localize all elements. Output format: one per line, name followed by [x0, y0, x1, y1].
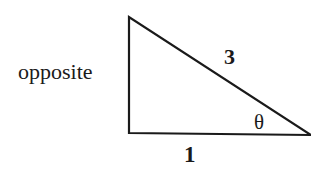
right-triangle	[129, 17, 311, 135]
opposite-label: opposite	[18, 59, 93, 84]
angle-label: θ	[254, 110, 264, 134]
triangle-diagram: opposite 3 θ 1	[0, 0, 311, 171]
hypotenuse-label: 3	[224, 44, 235, 69]
adjacent-label: 1	[184, 142, 196, 167]
